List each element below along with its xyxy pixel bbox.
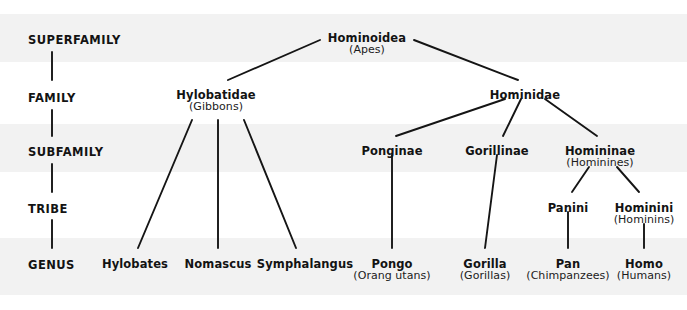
taxon-node-hylobates: Hylobates	[102, 258, 168, 270]
edge-hominidae-homininae	[545, 99, 597, 136]
taxon-node-hominini: Hominini(Hominins)	[614, 202, 675, 226]
taxon-name-hominidae: Hominidae	[490, 89, 560, 101]
taxon-common-name-homininae: (Hominines)	[565, 157, 635, 169]
taxon-node-gorilla: Gorilla(Gorillas)	[460, 258, 511, 282]
taxon-node-homininae: Homininae(Hominines)	[565, 145, 635, 169]
taxon-common-name-pongo: (Orang utans)	[353, 270, 430, 282]
rank-label-family: FAMILY	[28, 91, 76, 105]
taxon-common-name-gorilla: (Gorillas)	[460, 270, 511, 282]
taxon-common-name-pan: (Chimpanzees)	[526, 270, 609, 282]
taxon-node-panini: Panini	[548, 202, 589, 214]
taxon-name-panini: Panini	[548, 202, 589, 214]
taxon-node-hominoidea: Hominoidea(Apes)	[328, 32, 406, 56]
taxonomy-diagram: SUPERFAMILYFAMILYSUBFAMILYTRIBEGENUS Hom…	[0, 0, 687, 310]
edge-homininae-hominini	[617, 167, 639, 192]
taxon-name-hylobates: Hylobates	[102, 258, 168, 270]
edge-hominoidea-hominidae	[414, 40, 518, 80]
taxon-node-nomascus: Nomascus	[185, 258, 252, 270]
taxon-node-hominidae: Hominidae	[490, 89, 560, 101]
taxon-name-symphalangus: Symphalangus	[257, 258, 353, 270]
taxon-node-hylobatidae: Hylobatidae(Gibbons)	[176, 89, 255, 113]
taxon-node-gorillinae: Gorillinae	[465, 145, 529, 157]
taxon-node-ponginae: Ponginae	[361, 145, 422, 157]
edge-hominoidea-hylobatidae	[228, 40, 320, 80]
rank-label-superfamily: SUPERFAMILY	[28, 33, 121, 47]
rank-label-genus: GENUS	[28, 258, 75, 272]
taxon-common-name-hominini: (Hominins)	[614, 214, 675, 226]
rank-label-tribe: TRIBE	[28, 202, 68, 216]
taxon-name-gorillinae: Gorillinae	[465, 145, 529, 157]
edge-hominidae-ponginae	[396, 99, 505, 136]
edge-hylobatidae-symphalangus	[244, 120, 296, 248]
taxon-name-ponginae: Ponginae	[361, 145, 422, 157]
taxon-node-symphalangus: Symphalangus	[257, 258, 353, 270]
edge-hominidae-gorillinae	[503, 99, 521, 136]
taxon-node-homo: Homo(Humans)	[617, 258, 671, 282]
taxon-common-name-hylobatidae: (Gibbons)	[176, 101, 255, 113]
taxon-node-pan: Pan(Chimpanzees)	[526, 258, 609, 282]
taxon-common-name-homo: (Humans)	[617, 270, 671, 282]
edge-homininae-panini	[572, 167, 589, 192]
edge-gorillinae-gorilla	[485, 155, 497, 248]
rank-label-subfamily: SUBFAMILY	[28, 145, 103, 159]
taxon-name-nomascus: Nomascus	[185, 258, 252, 270]
taxon-node-pongo: Pongo(Orang utans)	[353, 258, 430, 282]
taxon-common-name-hominoidea: (Apes)	[328, 44, 406, 56]
edge-hylobatidae-hylobates	[138, 120, 192, 248]
